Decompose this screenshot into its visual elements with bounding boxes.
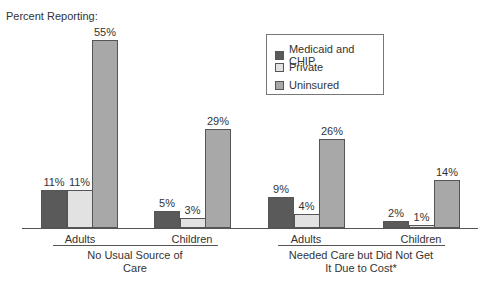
bar-private-1 bbox=[180, 218, 206, 228]
value-label: 14% bbox=[427, 166, 467, 178]
category-label-adults-1: Adults bbox=[40, 233, 120, 245]
legend-swatch bbox=[275, 81, 284, 90]
bar-private-3 bbox=[409, 225, 435, 228]
group-label-line: Needed Care but Did Not Get bbox=[276, 249, 446, 262]
bar-uninsured-1 bbox=[205, 129, 231, 228]
x-axis-baseline bbox=[22, 228, 478, 229]
legend-swatch bbox=[275, 63, 284, 72]
group-label-line: It Due to Cost* bbox=[276, 262, 446, 275]
category-label-children-2: Children bbox=[381, 233, 461, 245]
bar-uninsured-2 bbox=[319, 139, 345, 228]
value-label: 26% bbox=[312, 125, 352, 137]
legend-item-uninsured: Uninsured bbox=[275, 79, 339, 91]
group-label-line: Care bbox=[60, 262, 210, 275]
category-label-children-1: Children bbox=[152, 233, 232, 245]
group-label-line: No Usual Source of bbox=[60, 249, 210, 262]
category-label-adults-2: Adults bbox=[266, 233, 346, 245]
legend-item-private: Private bbox=[275, 61, 323, 73]
group-label-no-usual-source: No Usual Source of Care bbox=[60, 249, 210, 275]
bar-uninsured-0 bbox=[92, 40, 118, 228]
value-label: 55% bbox=[85, 26, 125, 38]
bar-private-0 bbox=[67, 190, 93, 228]
y-axis-label: Percent Reporting: bbox=[6, 10, 98, 22]
bar-medicaid-and-chip-0 bbox=[41, 190, 67, 228]
legend-label: Uninsured bbox=[289, 79, 339, 91]
group-divider-2 bbox=[278, 245, 445, 246]
bar-uninsured-3 bbox=[434, 180, 460, 228]
legend-swatch bbox=[275, 51, 284, 60]
legend: Medicaid and CHIP Private Uninsured bbox=[266, 34, 384, 95]
bar-private-2 bbox=[294, 214, 320, 228]
legend-label: Private bbox=[289, 61, 323, 73]
value-label: 9% bbox=[261, 183, 301, 195]
group-divider-1 bbox=[53, 245, 218, 246]
group-label-needed-care: Needed Care but Did Not Get It Due to Co… bbox=[276, 249, 446, 275]
value-label: 29% bbox=[198, 115, 238, 127]
